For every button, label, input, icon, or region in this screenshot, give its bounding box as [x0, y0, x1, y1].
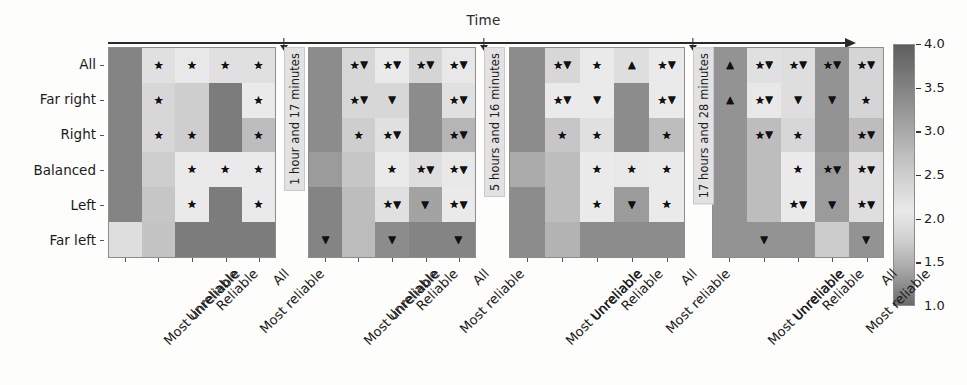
- cell-markers: ★▼: [416, 164, 434, 175]
- star-marker: ★: [793, 129, 803, 140]
- cell-markers: ★: [253, 59, 263, 70]
- triangle-down-marker: ▼: [799, 199, 807, 209]
- triangle-down-marker: ▼: [828, 95, 836, 105]
- cell-markers: ★▼: [789, 59, 807, 70]
- heatmap-cell: ★: [649, 152, 684, 187]
- cell-markers: ★▼: [553, 94, 571, 105]
- triangle-down-marker: ▼: [322, 234, 330, 244]
- x-axis-label: All: [470, 266, 492, 288]
- cell-markers: ▼: [794, 95, 802, 105]
- heatmap-cell: [510, 152, 545, 187]
- heatmap-cell: [713, 152, 747, 187]
- colorbar-tick: [916, 131, 921, 132]
- heatmap-cell: ★▼: [747, 48, 781, 83]
- colorbar-tick: [916, 262, 921, 263]
- colorbar-tick: [916, 88, 921, 89]
- heatmap-cell: ★: [142, 83, 175, 118]
- star-marker: ★: [449, 94, 459, 105]
- heatmap-cell: [510, 187, 545, 222]
- heatmap-cell: [781, 222, 815, 257]
- star-marker: ★: [755, 59, 765, 70]
- x-axis-label: All: [678, 266, 700, 288]
- cell-markers: ★: [220, 164, 230, 175]
- colorbar-tick-label: 3.0: [924, 123, 945, 138]
- triangle-down-marker: ▼: [765, 130, 773, 140]
- heatmap-cell: ★▼: [375, 48, 408, 83]
- star-marker: ★: [187, 164, 197, 175]
- star-marker: ★: [755, 94, 765, 105]
- cell-markers: ★: [253, 199, 263, 210]
- y-axis-tick: [100, 100, 104, 101]
- cell-markers: ★: [592, 164, 602, 175]
- cell-markers: ★▼: [857, 59, 875, 70]
- heatmap-cell: [342, 187, 375, 222]
- heatmap-cell: [747, 152, 781, 187]
- cell-markers: ▼: [421, 199, 429, 209]
- heatmap-cell: ★: [209, 48, 242, 83]
- cell-markers: ▼: [628, 199, 636, 209]
- heatmap-cell: ▼: [781, 83, 815, 118]
- heatmap-cell: [109, 48, 142, 83]
- heatmap-cell: [545, 187, 580, 222]
- triangle-down-marker: ▼: [833, 164, 841, 174]
- colorbar-tick: [916, 44, 921, 45]
- triangle-down-marker: ▼: [393, 60, 401, 70]
- y-axis-tick: [100, 65, 104, 66]
- triangle-down-marker: ▼: [760, 234, 768, 244]
- x-axis-tick: [392, 258, 393, 262]
- star-marker: ★: [592, 59, 602, 70]
- x-axis-tick: [125, 258, 126, 262]
- star-marker: ★: [220, 164, 230, 175]
- cell-markers: ★▼: [857, 129, 875, 140]
- cell-markers: ▲: [628, 60, 636, 70]
- star-marker: ★: [449, 164, 459, 175]
- heatmap-cell: ★: [649, 187, 684, 222]
- heatmap-cell: ★▼: [747, 118, 781, 153]
- time-gap-label: 17 hours and 28 minutes: [693, 47, 714, 204]
- star-marker: ★: [187, 59, 197, 70]
- heatmap-cell: [815, 222, 849, 257]
- cell-markers: ★: [187, 199, 197, 210]
- cell-markers: ▼: [455, 234, 463, 244]
- heatmap-cell: ★▼: [442, 187, 475, 222]
- cell-markers: ★▼: [449, 129, 467, 140]
- y-axis-label: Right: [60, 117, 96, 152]
- star-marker: ★: [857, 164, 867, 175]
- triangle-down-marker: ▼: [460, 199, 468, 209]
- cell-markers: ★: [154, 129, 164, 140]
- x-axis-tick: [798, 258, 799, 262]
- cell-markers: ★: [187, 164, 197, 175]
- cell-markers: ★▼: [658, 94, 676, 105]
- triangle-down-marker: ▼: [862, 234, 870, 244]
- y-axis-tick: [100, 240, 104, 241]
- cell-markers: ★: [253, 129, 263, 140]
- y-axis-label: Balanced: [34, 153, 96, 188]
- triangle-down-marker: ▼: [628, 199, 636, 209]
- heatmap-cell: ★▼: [442, 48, 475, 83]
- heatmap-cell: ★▼: [375, 118, 408, 153]
- heatmap-cell: [209, 83, 242, 118]
- heatmap-cell: ★▼: [442, 152, 475, 187]
- heatmap-cell: ★: [142, 48, 175, 83]
- colorbar-tick-label: 2.0: [924, 211, 945, 226]
- heatmap-cell: ★: [142, 118, 175, 153]
- heatmap-cell: ★: [781, 118, 815, 153]
- x-axis-tick: [459, 258, 460, 262]
- triangle-down-marker: ▼: [564, 60, 572, 70]
- heatmap-cell: [209, 187, 242, 222]
- cell-markers: ★: [793, 129, 803, 140]
- heatmap-cell: [510, 83, 545, 118]
- star-marker: ★: [253, 164, 263, 175]
- cell-markers: ▲: [726, 95, 734, 105]
- cell-markers: ★▼: [658, 59, 676, 70]
- star-marker: ★: [354, 129, 364, 140]
- heatmap-cell: [614, 118, 649, 153]
- cell-markers: ▼: [322, 234, 330, 244]
- cell-markers: ★: [662, 129, 672, 140]
- heatmap-cell: ★▼: [409, 48, 442, 83]
- star-marker: ★: [253, 129, 263, 140]
- cell-markers: ★: [557, 129, 567, 140]
- triangle-down-marker: ▼: [668, 95, 676, 105]
- heatmap-cell: [309, 118, 342, 153]
- heatmap-grid: ★▼★▼★▼★▼★▼▼★▼★★▼★▼★★▼★▼★▼▼★▼▼▼▼: [308, 47, 476, 258]
